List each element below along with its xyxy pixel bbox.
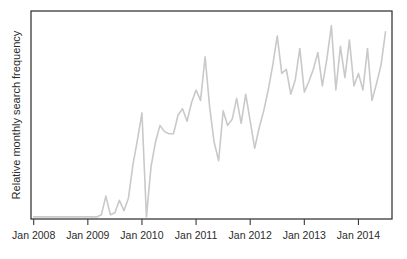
x-axis-tick-label: Jan 2008 (12, 229, 55, 241)
y-axis-label: Relative monthly search frequency (10, 30, 22, 199)
x-axis-tick-labels: Jan 2008Jan 2009Jan 2010Jan 2011Jan 2012… (12, 229, 380, 241)
chart-container: Relative monthly search frequency Jan 20… (0, 0, 407, 259)
plot-area-frame (31, 11, 392, 219)
x-axis-tick-label: Jan 2010 (120, 229, 163, 241)
x-axis-ticks (34, 219, 359, 225)
x-axis-tick-label: Jan 2011 (175, 229, 218, 241)
x-axis-tick-label: Jan 2014 (337, 229, 380, 241)
x-axis-tick-label: Jan 2013 (283, 229, 326, 241)
x-axis-tick-label: Jan 2009 (66, 229, 109, 241)
search-frequency-line-chart: Relative monthly search frequency Jan 20… (0, 0, 407, 259)
x-axis-tick-label: Jan 2012 (229, 229, 272, 241)
